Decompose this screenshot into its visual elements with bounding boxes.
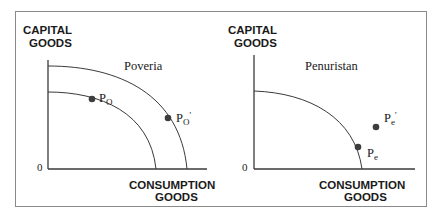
- point-po-prime: [165, 115, 172, 122]
- country-label: Penuristan: [305, 59, 359, 73]
- origin-label: 0: [242, 161, 248, 173]
- y-axis-label-line1: CAPITAL: [228, 24, 277, 36]
- point-pe: [355, 144, 362, 151]
- point-po-prime-label: PO': [176, 110, 191, 127]
- panel-poveria: CAPITAL GOODS 0 CONSUMPTION GOODS Poveri…: [23, 24, 215, 203]
- point-pe-label: Pe: [367, 146, 378, 162]
- origin-label: 0: [37, 161, 43, 173]
- x-axis-label-line1: CONSUMPTION: [319, 179, 405, 191]
- y-axis-label-line2: GOODS: [29, 37, 72, 49]
- ppf-diagram: CAPITAL GOODS 0 CONSUMPTION GOODS Poveri…: [0, 0, 442, 218]
- ppf-curve: [254, 91, 362, 169]
- point-po-label: PO: [99, 91, 113, 107]
- point-pe-prime: [373, 124, 380, 131]
- point-po: [89, 96, 96, 103]
- x-axis-label-line1: CONSUMPTION: [129, 179, 215, 191]
- y-axis-label-line2: GOODS: [234, 37, 277, 49]
- x-axis-label-line2: GOODS: [344, 191, 387, 203]
- y-axis-label-line1: CAPITAL: [23, 24, 72, 36]
- country-label: Poveria: [124, 59, 163, 73]
- x-axis-label-line2: GOODS: [155, 191, 198, 203]
- panel-penuristan: CAPITAL GOODS 0 CONSUMPTION GOODS Penuri…: [228, 24, 415, 203]
- point-pe-prime-label: Pe': [384, 110, 397, 127]
